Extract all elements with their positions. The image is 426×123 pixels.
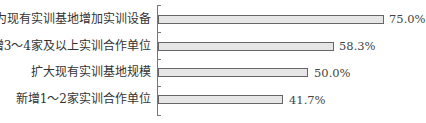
category-label: 新增1～2家实训合作单位 — [16, 92, 151, 106]
value-label: 41.7% — [289, 93, 326, 107]
axis-tick — [157, 86, 161, 87]
axis-tick — [157, 32, 161, 33]
value-label: 75.0% — [389, 12, 426, 26]
bar — [158, 95, 283, 104]
axis-tick — [157, 5, 161, 6]
value-label: 58.3% — [339, 39, 376, 53]
category-label: 新增3～4家及以上实训合作单位 — [0, 39, 151, 53]
bar — [158, 68, 308, 77]
axis-tick — [157, 115, 161, 116]
bar — [158, 42, 334, 51]
bar — [158, 15, 384, 24]
category-label: 扩大现有实训基地规模 — [31, 65, 151, 79]
category-label: 为现有实训基地增加实训设备 — [0, 12, 151, 26]
axis-tick — [157, 59, 161, 60]
value-label: 50.0% — [314, 66, 351, 80]
